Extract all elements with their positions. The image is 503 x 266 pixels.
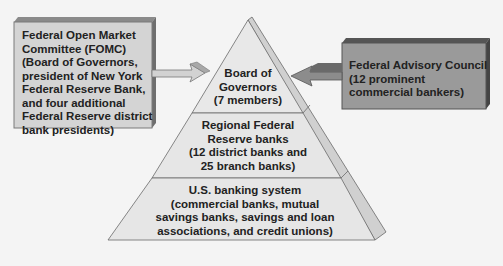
advisory-council-label: Federal Advisory Council (12 prominent c… <box>349 59 487 100</box>
tier-line: savings banks, savings and loan <box>130 211 360 225</box>
fomc-line: president of New York <box>22 70 152 84</box>
fomc-line: Federal Open Market <box>22 29 152 43</box>
tier-line: (12 district banks and <box>160 146 336 160</box>
fomc-line: Federal Reserve district <box>22 110 152 124</box>
advisory-line: commercial bankers) <box>349 86 487 100</box>
arrow-left-icon <box>291 63 342 86</box>
tier-line: (commercial banks, mutual <box>130 198 360 212</box>
fomc-line: (Board of Governors, <box>22 56 152 70</box>
tier-us-banking-system: U.S. banking system (commercial banks, m… <box>130 184 360 238</box>
advisory-line: (12 prominent <box>349 73 487 87</box>
tier-line: U.S. banking system <box>130 184 360 198</box>
fomc-line: Federal Reserve Bank, <box>22 83 152 97</box>
tier-regional-banks: Regional Federal Reserve banks (12 distr… <box>160 119 336 173</box>
fomc-label: Federal Open Market Committee (FOMC) (Bo… <box>22 29 152 137</box>
tier-line: Reserve banks <box>160 133 336 147</box>
tier-line: Governors <box>198 81 298 95</box>
fomc-line: and four additional <box>22 97 152 111</box>
fomc-line: Committee (FOMC) <box>22 43 152 57</box>
tier-line: 25 branch banks) <box>160 160 336 174</box>
tier-line: Board of <box>198 67 298 81</box>
tier-line: Regional Federal <box>160 119 336 133</box>
advisory-line: Federal Advisory Council <box>349 59 487 73</box>
tier-board-of-governors: Board of Governors (7 members) <box>198 67 298 108</box>
fomc-line: bank presidents) <box>22 124 152 138</box>
tier-line: associations, and credit unions) <box>130 225 360 239</box>
tier-line: (7 members) <box>198 94 298 108</box>
